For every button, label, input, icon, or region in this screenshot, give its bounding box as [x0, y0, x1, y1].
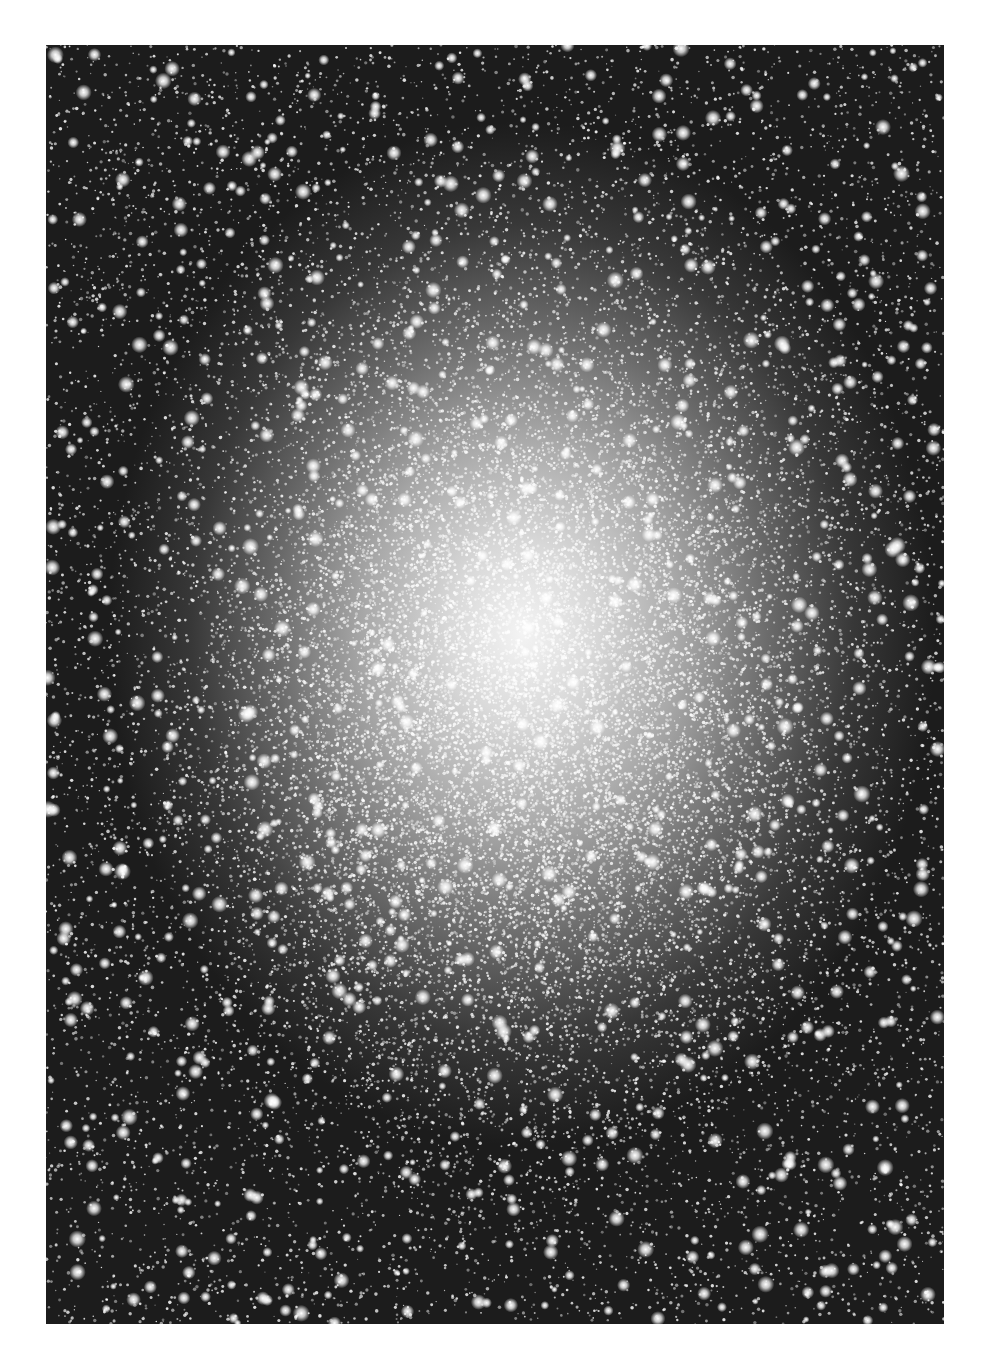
star-cluster-image: globular star cluster, dense star field — [46, 45, 944, 1324]
star-field — [46, 45, 944, 1324]
